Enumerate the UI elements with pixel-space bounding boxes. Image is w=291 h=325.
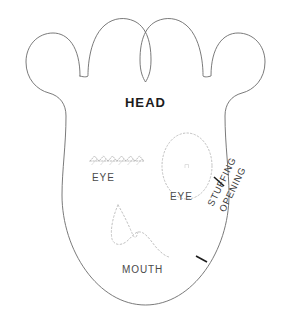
mouth-label: MOUTH [122, 264, 163, 275]
pattern-sheet: HEAD EYE EYE MOUTH STUFFING OPENING [0, 0, 291, 325]
eye-right-label: EYE [170, 191, 193, 202]
pattern-drawing [0, 0, 291, 325]
eye-left-label: EYE [92, 172, 115, 183]
head-label: HEAD [0, 95, 291, 110]
